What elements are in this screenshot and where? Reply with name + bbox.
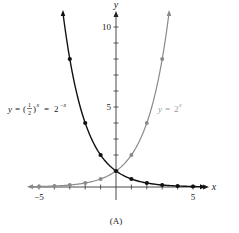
svg-text:y: y: [7, 104, 12, 114]
data-point: [68, 183, 72, 187]
data-point: [83, 121, 87, 125]
data-point: [176, 184, 180, 188]
data-point: [52, 184, 56, 188]
data-point: [145, 181, 149, 185]
svg-text:x: x: [178, 102, 182, 108]
data-point: [191, 184, 195, 188]
svg-text:2: 2: [174, 104, 179, 114]
data-point: [145, 121, 149, 125]
data-point: [99, 177, 103, 181]
data-point: [129, 153, 133, 157]
data-point: [114, 169, 118, 173]
svg-text:2: 2: [28, 110, 31, 116]
data-point: [160, 57, 164, 61]
curve-arrow-icon: [27, 184, 33, 189]
svg-text:=: =: [44, 104, 49, 114]
y-tick-label-5: 5: [107, 102, 112, 112]
data-point: [129, 177, 133, 181]
exponential-chart: y x 10 5 −5 5 y = ( 1 2 ) x = 2 −x y = 2…: [0, 0, 239, 233]
x-tick-label-5: 5: [191, 192, 196, 202]
figure-caption: (A): [110, 216, 123, 226]
y-tick-label-10: 10: [102, 22, 112, 32]
svg-text:1: 1: [28, 102, 31, 108]
svg-text:2: 2: [54, 104, 59, 114]
y-axis-arrow-icon: [114, 11, 119, 17]
annotation-2-pow-x: y = 2 x: [157, 102, 182, 114]
data-point: [37, 185, 41, 189]
svg-text:y: y: [157, 104, 162, 114]
curves: [27, 10, 206, 189]
data-point: [99, 153, 103, 157]
data-point: [68, 57, 72, 61]
y-axis-label: y: [113, 0, 119, 10]
x-axis-label: x: [211, 181, 217, 192]
annotation-half-pow-x: y = ( 1 2 ) x = 2 −x: [7, 102, 67, 116]
curve-arrow-icon: [61, 10, 66, 16]
svg-text:=: =: [165, 104, 170, 114]
curve-2-pow-neg-x: [63, 13, 204, 187]
svg-text:=: =: [15, 104, 20, 114]
svg-text:(: (: [23, 104, 26, 114]
curve-2-pow-x: [30, 13, 169, 187]
data-point: [83, 181, 87, 185]
x-tick-label-neg5: −5: [34, 192, 44, 202]
curve-arrow-icon: [167, 10, 172, 16]
data-point: [160, 183, 164, 187]
svg-text:x: x: [36, 102, 40, 108]
svg-text:−x: −x: [60, 102, 67, 108]
